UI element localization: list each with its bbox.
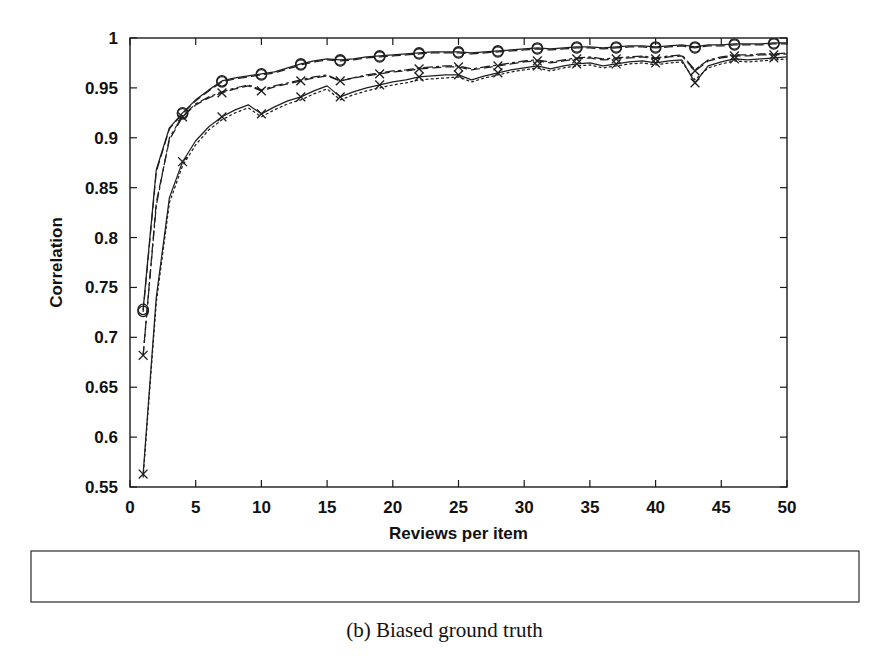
figure-panel: 051015202530354045500.550.60.650.70.750.… xyxy=(0,0,889,659)
series-bias-adjusted-mean xyxy=(143,53,787,355)
y-tick-label: 0.6 xyxy=(94,428,118,447)
series-line xyxy=(143,57,787,474)
y-tick: 0.75 xyxy=(85,278,787,297)
figure-caption: (b) Biased ground truth xyxy=(0,618,889,643)
y-tick: 0.95 xyxy=(85,79,787,98)
y-tick: 0.85 xyxy=(85,179,787,198)
series-line xyxy=(143,59,787,477)
x-tick: 35 xyxy=(580,38,599,517)
plot-frame xyxy=(130,38,787,487)
x-tick-label: 25 xyxy=(449,498,468,517)
series-line xyxy=(143,43,787,309)
y-tick-label: 0.85 xyxy=(85,179,118,198)
x-marker xyxy=(494,69,503,78)
x-marker xyxy=(257,86,266,95)
x-tick-label: 30 xyxy=(515,498,534,517)
y-axis-label: Correlation xyxy=(47,217,66,308)
x-tick-label: 45 xyxy=(712,498,731,517)
x-tick: 15 xyxy=(318,38,337,517)
y-tick-label: 0.65 xyxy=(85,378,118,397)
x-tick-label: 20 xyxy=(383,498,402,517)
x-tick: 20 xyxy=(383,38,402,517)
series-area xyxy=(138,38,787,479)
chart-legend xyxy=(31,551,859,602)
x-marker xyxy=(691,67,700,76)
y-tick-label: 1 xyxy=(109,29,118,48)
y-tick-label: 0.75 xyxy=(85,278,118,297)
y-tick: 0.8 xyxy=(94,229,787,248)
y-tick: 0.65 xyxy=(85,378,787,397)
y-tick: 0.6 xyxy=(94,428,787,447)
x-axis-label: Reviews per item xyxy=(389,524,528,543)
x-marker xyxy=(178,157,187,166)
y-tick-label: 0.55 xyxy=(85,478,118,497)
x-tick: 30 xyxy=(515,38,534,517)
x-tick-label: 5 xyxy=(191,498,200,517)
series-line xyxy=(143,54,787,355)
series-bias-adjusted-asymptotic-consensus xyxy=(139,54,787,479)
series-line xyxy=(143,44,787,311)
x-tick: 40 xyxy=(646,38,665,517)
y-tick-label: 0.95 xyxy=(85,79,118,98)
series-asymptotic-consensus xyxy=(139,51,787,360)
x-tick-label: 0 xyxy=(125,498,134,517)
correlation-line-chart: 051015202530354045500.550.60.650.70.750.… xyxy=(0,0,889,615)
y-tick-label: 0.9 xyxy=(94,129,118,148)
x-tick-label: 35 xyxy=(580,498,599,517)
legend-box xyxy=(31,551,859,602)
y-tick-label: 0.8 xyxy=(94,229,118,248)
x-tick: 45 xyxy=(712,38,731,517)
x-tick-label: 40 xyxy=(646,498,665,517)
x-tick: 5 xyxy=(191,38,200,517)
x-tick-label: 50 xyxy=(778,498,797,517)
series-smoothed-factor-analysis xyxy=(138,39,787,317)
series-line xyxy=(143,53,787,355)
y-tick: 0.7 xyxy=(94,328,787,347)
x-tick-label: 10 xyxy=(252,498,271,517)
x-marker xyxy=(336,77,345,86)
y-tick-label: 0.7 xyxy=(94,328,118,347)
x-tick: 25 xyxy=(449,38,468,517)
x-tick-label: 15 xyxy=(318,498,337,517)
series-mean xyxy=(143,59,787,477)
